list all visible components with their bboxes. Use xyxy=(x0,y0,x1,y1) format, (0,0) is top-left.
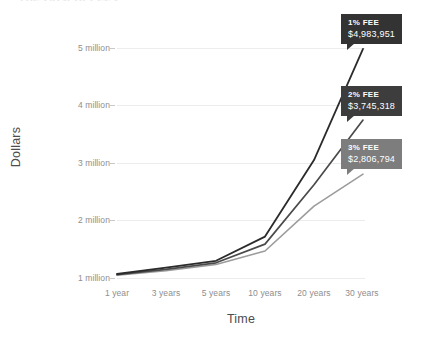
gridline-1m xyxy=(117,278,365,279)
callout-2-tail xyxy=(347,115,355,122)
callout-1-tail xyxy=(347,43,355,50)
callout-2-percent-fee: 2% FEE $3,745,318 xyxy=(341,86,402,116)
x-axis-title: Time xyxy=(117,312,365,326)
gridline-5m xyxy=(117,48,365,49)
plot-area xyxy=(117,48,365,278)
gridline-4m xyxy=(117,105,365,106)
callout-2-value: $3,745,318 xyxy=(348,101,395,112)
y-tick-dash-5m xyxy=(110,48,115,49)
callout-2-label: 2% FEE xyxy=(348,90,395,101)
y-tick-dash-2m xyxy=(110,220,115,221)
callout-1-percent-fee: 1% FEE $4,983,951 xyxy=(341,14,402,44)
callout-3-tail xyxy=(347,168,355,175)
callout-3-percent-fee: 3% FEE $2,806,794 xyxy=(341,139,402,169)
x-tick-label-30-years: 30 years xyxy=(332,288,392,298)
callout-3-value: $2,806,794 xyxy=(348,154,395,165)
y-tick-dash-1m xyxy=(110,278,115,279)
y-tick-label-2m: 2 million xyxy=(40,215,110,225)
callout-3-label: 3% FEE xyxy=(348,143,395,154)
y-tick-dash-3m xyxy=(110,163,115,164)
callout-1-label: 1% FEE xyxy=(348,18,395,29)
y-tick-label-5m: 5 million xyxy=(40,43,110,53)
y-tick-label-4m: 4 million xyxy=(40,100,110,110)
y-axis-title: Dollars xyxy=(9,117,23,177)
line-chart: The Cost of Fees Dollars 5 million 4 mil… xyxy=(0,0,426,343)
y-tick-label-3m: 3 million xyxy=(40,158,110,168)
callout-1-value: $4,983,951 xyxy=(348,29,395,40)
gridline-2m xyxy=(117,220,365,221)
y-tick-dash-4m xyxy=(110,105,115,106)
x-axis-ticks: 1 year 3 years 5 years 10 years 20 years… xyxy=(0,288,426,302)
y-tick-label-1m: 1 million xyxy=(40,273,110,283)
gridline-3m xyxy=(117,163,365,164)
